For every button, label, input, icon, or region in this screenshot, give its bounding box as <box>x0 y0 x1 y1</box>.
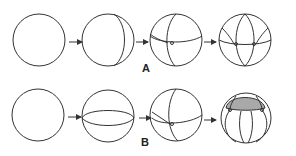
cleavage-diagram <box>0 0 296 156</box>
row-b-stage-2 <box>82 90 134 142</box>
row-b-stage-1 <box>12 89 64 141</box>
row-a-stage-1 <box>13 14 65 66</box>
row-a-stage-2 <box>82 14 134 66</box>
row-a-stage-4 <box>219 14 271 66</box>
row-a-label: A <box>142 62 150 74</box>
row-a-stage-3 <box>150 14 202 66</box>
row-b-label: B <box>141 136 149 148</box>
row-b-stage-3 <box>150 89 202 141</box>
row-b-stage-4 <box>221 93 271 143</box>
